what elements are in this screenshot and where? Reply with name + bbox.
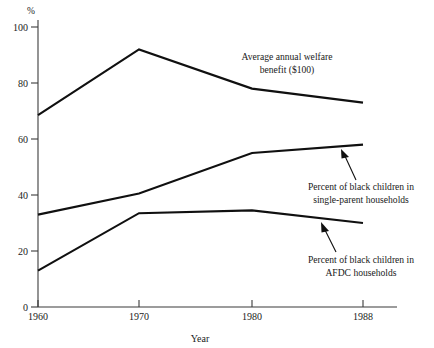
annotation-welfare-benefit-line1: Average annual welfare — [242, 51, 333, 62]
y-tick-label-40: 40 — [18, 190, 28, 201]
annotation-afdc-line2: AFDC households — [325, 267, 396, 278]
y-tick-label-20: 20 — [18, 246, 28, 257]
annotation-single-parent-line1: Percent of black children in — [308, 181, 414, 192]
x-axis-title: Year — [191, 333, 210, 344]
annotation-afdc-line1: Percent of black children in — [308, 254, 414, 265]
x-tick-label-1980: 1980 — [242, 311, 262, 322]
line-chart-figure: 0 20 40 60 80 100 % 1960 1970 1980 1988 … — [0, 0, 434, 348]
x-tick-label-1988: 1988 — [353, 311, 373, 322]
x-tick-label-1960: 1960 — [28, 311, 48, 322]
annotation-single-parent-line2: single-parent households — [313, 194, 409, 205]
chart-svg: 0 20 40 60 80 100 % 1960 1970 1980 1988 … — [0, 0, 434, 348]
x-tick-label-1970: 1970 — [129, 311, 149, 322]
y-tick-label-100: 100 — [13, 22, 28, 33]
y-axis-unit-label: % — [27, 6, 35, 16]
chart-background — [0, 0, 434, 348]
y-tick-label-60: 60 — [18, 134, 28, 145]
annotation-welfare-benefit-line2: benefit ($100) — [260, 64, 315, 76]
y-tick-label-80: 80 — [18, 78, 28, 89]
